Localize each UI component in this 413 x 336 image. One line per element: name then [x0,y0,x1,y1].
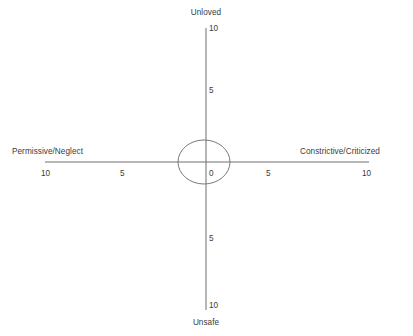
tick-label-bottom-5: 5 [209,235,214,243]
axis-label-top: Unloved [191,9,221,17]
chart-axes-and-marker [0,0,413,336]
tick-label-right-10: 10 [362,170,371,178]
tick-label-left-10: 10 [41,170,50,178]
quadrant-chart: |||||| ||| |||| Unloved Unsafe Permissiv… [0,0,413,336]
tick-label-top-10: 10 [209,25,218,33]
axis-label-bottom: Unsafe [193,319,219,327]
axis-label-right: Constrictive/Criticized [300,148,380,156]
tick-label-top-5: 5 [209,87,214,95]
tick-label-bottom-10: 10 [209,302,218,310]
tick-label-right-5: 5 [266,170,271,178]
axis-label-left: Permissive/Neglect [12,148,83,156]
tick-label-left-5: 5 [120,170,125,178]
tick-label-origin: 0 [209,170,214,178]
